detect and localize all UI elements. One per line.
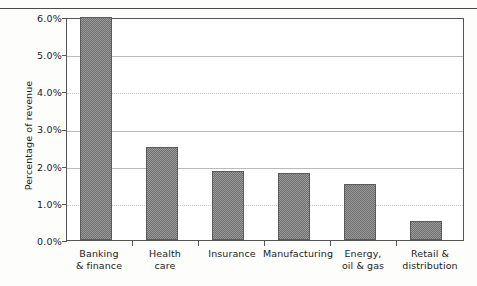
x-tick-mark-4 <box>330 241 331 246</box>
gridline-1 <box>67 205 463 206</box>
y-tick-label-4: 4.0% <box>14 87 62 98</box>
bar-retail-distribution[interactable] <box>410 221 442 240</box>
x-tick-mark-3 <box>264 241 265 246</box>
x-tick-mark-5 <box>396 241 397 246</box>
x-label-health-care: Health care <box>129 248 201 272</box>
gridline-3 <box>67 131 463 132</box>
x-label-retail-distribution: Retail & distribution <box>391 248 469 272</box>
x-tick-mark-2 <box>198 241 199 246</box>
bar-insurance[interactable] <box>212 171 244 240</box>
bar-energy-oil-gas[interactable] <box>344 184 376 240</box>
bar-banking-finance[interactable] <box>80 17 112 240</box>
y-tick-label-1: 1.0% <box>14 199 62 210</box>
gridline-4 <box>67 93 463 94</box>
bar-manufacturing[interactable] <box>278 173 310 240</box>
y-tick-mark-0 <box>62 241 67 242</box>
y-tick-label-2: 2.0% <box>14 162 62 173</box>
x-label-banking-finance: Banking & finance <box>63 248 135 272</box>
bar-health-care[interactable] <box>146 147 178 240</box>
y-tick-label-5: 5.0% <box>14 50 62 61</box>
gridline-2 <box>67 168 463 169</box>
y-tick-label-0: 0.0% <box>14 236 62 247</box>
x-label-energy-oil-gas: Energy, oil & gas <box>327 248 399 272</box>
bar-chart: Percentage of revenue 6.0% 5.0% 4.0% 3.0… <box>0 0 477 286</box>
x-tick-mark-1 <box>132 241 133 246</box>
gridline-5 <box>67 56 463 57</box>
plot-area <box>66 18 464 241</box>
y-tick-label-6: 6.0% <box>14 13 62 24</box>
y-axis-title: Percentage of revenue <box>23 61 34 211</box>
y-tick-label-3: 3.0% <box>14 124 62 135</box>
